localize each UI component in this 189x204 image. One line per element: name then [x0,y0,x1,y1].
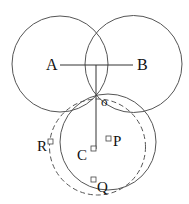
circle-C [60,94,156,190]
point-p-label: P [113,133,121,149]
point-p-marker-icon [106,136,111,141]
circle-A [12,16,108,112]
point-c-marker-icon [91,146,96,151]
geometry-diagram: ABoRCPQ [0,0,189,204]
point-b-label: B [137,56,148,73]
point-labels-group: ABoRCPQ [37,56,148,195]
point-q-marker-icon [91,177,96,182]
point-c-label: C [77,147,87,163]
point-q-label: Q [97,179,108,195]
point-o-label: o [101,94,108,109]
segments-group [60,65,133,149]
point-a-label: A [46,56,58,73]
point-r-label: R [37,138,47,154]
point-r-marker-icon [48,139,53,144]
circle-B [85,16,182,113]
circles-group [12,16,182,196]
